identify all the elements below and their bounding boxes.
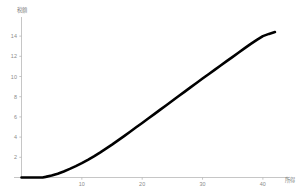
y-axis-tick-label: 2 xyxy=(0,154,17,160)
chart-container: 10203040 2468101214 税額 所得 xyxy=(0,0,303,196)
x-axis-tick-label: 30 xyxy=(199,181,205,187)
y-axis-title: 税額 xyxy=(17,6,27,13)
axes-group xyxy=(14,17,288,178)
y-axis-tick-label: 6 xyxy=(0,114,17,120)
y-axis-tick-label: 4 xyxy=(0,134,17,140)
x-axis-tick-label: 10 xyxy=(79,181,85,187)
data-series-line xyxy=(22,32,275,177)
y-axis-tick-label: 14 xyxy=(0,33,17,39)
y-axis-tick-label: 12 xyxy=(0,53,17,59)
chart-plot-area xyxy=(0,0,303,196)
x-axis-title: 所得 xyxy=(285,176,295,183)
y-axis-tick-label: 8 xyxy=(0,94,17,100)
y-axis-tick-label: 10 xyxy=(0,74,17,80)
x-axis-tick-label: 20 xyxy=(139,181,145,187)
x-axis-tick-label: 40 xyxy=(260,181,266,187)
